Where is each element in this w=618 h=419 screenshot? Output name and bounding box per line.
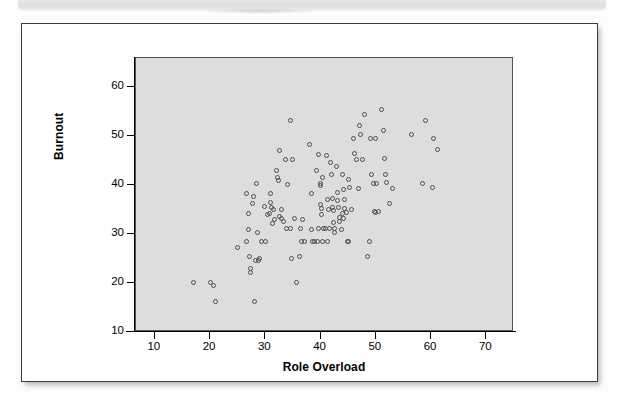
data-point bbox=[288, 226, 293, 231]
data-point bbox=[255, 230, 260, 235]
data-point bbox=[285, 182, 290, 187]
data-point bbox=[325, 239, 330, 244]
y-axis-line bbox=[134, 57, 135, 331]
data-point bbox=[362, 112, 367, 117]
data-point bbox=[340, 172, 345, 177]
data-point bbox=[315, 239, 320, 244]
x-axis-title: Role Overload bbox=[135, 360, 513, 374]
data-point bbox=[272, 217, 277, 222]
data-point bbox=[247, 254, 252, 259]
data-point bbox=[298, 226, 303, 231]
data-point bbox=[356, 186, 361, 191]
data-point bbox=[268, 191, 273, 196]
data-point bbox=[246, 227, 251, 232]
data-point bbox=[339, 227, 344, 232]
data-point bbox=[314, 168, 319, 173]
data-point bbox=[307, 142, 312, 147]
data-point bbox=[331, 208, 336, 213]
data-point bbox=[384, 180, 389, 185]
data-point bbox=[330, 196, 335, 201]
x-tick-mark bbox=[320, 332, 321, 339]
data-point bbox=[329, 172, 334, 177]
y-axis-title: Burnout bbox=[52, 113, 66, 160]
data-point bbox=[346, 177, 351, 182]
data-point bbox=[250, 201, 255, 206]
data-point bbox=[318, 183, 323, 188]
data-point bbox=[354, 157, 359, 162]
x-tick-label: 70 bbox=[470, 341, 500, 353]
y-tick-label: 10 bbox=[96, 325, 124, 337]
data-point bbox=[423, 118, 428, 123]
data-point bbox=[332, 230, 337, 235]
data-point bbox=[248, 270, 253, 275]
data-point bbox=[319, 206, 324, 211]
data-point bbox=[365, 254, 370, 259]
plot-area bbox=[135, 57, 513, 331]
data-point bbox=[367, 239, 372, 244]
y-tick-label: 20 bbox=[96, 276, 124, 288]
data-point bbox=[373, 136, 378, 141]
y-tick-mark bbox=[127, 331, 134, 332]
x-tick-mark bbox=[209, 332, 210, 339]
scatter-chart: 102030405060 10203040506070 Burnout Role… bbox=[0, 0, 618, 419]
data-point bbox=[277, 148, 282, 153]
data-point bbox=[281, 219, 286, 224]
data-point bbox=[431, 136, 436, 141]
data-point bbox=[336, 205, 341, 210]
y-tick-mark bbox=[127, 86, 134, 87]
data-point bbox=[335, 190, 340, 195]
data-point bbox=[254, 181, 259, 186]
data-point bbox=[251, 194, 256, 199]
data-point bbox=[213, 299, 218, 304]
y-tick-label: 30 bbox=[96, 227, 124, 239]
y-tick-label: 40 bbox=[96, 178, 124, 190]
data-point bbox=[253, 258, 258, 263]
data-point bbox=[331, 220, 336, 225]
data-point bbox=[300, 217, 305, 222]
x-tick-mark bbox=[375, 332, 376, 339]
data-point bbox=[376, 209, 381, 214]
data-point bbox=[360, 157, 365, 162]
data-point bbox=[328, 160, 333, 165]
data-point bbox=[265, 212, 270, 217]
data-point bbox=[263, 239, 268, 244]
data-point bbox=[292, 216, 297, 221]
data-point bbox=[276, 178, 281, 183]
data-point bbox=[383, 172, 388, 177]
data-point bbox=[271, 207, 276, 212]
x-tick-mark bbox=[264, 332, 265, 339]
data-point bbox=[435, 147, 440, 152]
x-tick-mark bbox=[430, 332, 431, 339]
data-point bbox=[409, 132, 414, 137]
x-tick-mark bbox=[485, 332, 486, 339]
y-tick-mark bbox=[127, 135, 134, 136]
x-axis-line bbox=[126, 331, 516, 332]
data-point bbox=[279, 207, 284, 212]
data-point bbox=[211, 283, 216, 288]
data-point bbox=[302, 239, 307, 244]
y-tick-mark bbox=[127, 233, 134, 234]
data-point bbox=[262, 204, 267, 209]
data-point bbox=[309, 227, 314, 232]
data-point bbox=[294, 280, 299, 285]
data-point bbox=[369, 172, 374, 177]
data-point bbox=[320, 175, 325, 180]
x-tick-label: 40 bbox=[305, 341, 335, 353]
data-point bbox=[316, 152, 321, 157]
data-point bbox=[283, 157, 288, 162]
y-tick-mark bbox=[127, 184, 134, 185]
data-point bbox=[347, 185, 352, 190]
data-point bbox=[191, 280, 196, 285]
data-point bbox=[420, 181, 425, 186]
data-point bbox=[244, 191, 249, 196]
data-point bbox=[387, 201, 392, 206]
data-point bbox=[382, 156, 387, 161]
data-point bbox=[235, 245, 240, 250]
data-point bbox=[374, 181, 379, 186]
data-point bbox=[246, 211, 251, 216]
data-point bbox=[244, 239, 249, 244]
data-point bbox=[351, 136, 356, 141]
data-point bbox=[381, 128, 386, 133]
data-point bbox=[390, 186, 395, 191]
data-point bbox=[352, 151, 357, 156]
